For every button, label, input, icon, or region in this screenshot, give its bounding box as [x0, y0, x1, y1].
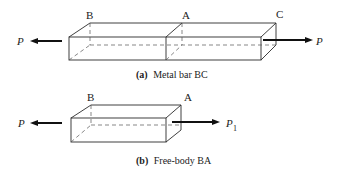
- point-label-b: B: [86, 9, 93, 21]
- force-arrow-right-a: [263, 37, 313, 43]
- bar-a-top-face: [69, 23, 276, 37]
- bar-a-hidden-left-diagonal: [69, 45, 90, 60]
- force-label-left-a: P: [16, 35, 24, 47]
- caption-a-tag: (a): [136, 69, 148, 81]
- metal-bar-bc: B A C P P (a) Metal bar BC: [16, 8, 323, 81]
- caption-b-tag: (b): [136, 155, 148, 167]
- point-label-c: C: [276, 8, 283, 20]
- point-label-b-fb: B: [87, 91, 94, 103]
- free-body-ba: B A P P 1 (b) Free-body BA: [17, 91, 237, 167]
- force-arrow-right-b: [172, 119, 220, 125]
- bar-a-front-face: [69, 37, 261, 60]
- force-arrow-left-b: [30, 120, 62, 126]
- bar-b-top-face: [71, 105, 181, 118]
- caption-b: (b) Free-body BA: [136, 155, 212, 167]
- force-arrow-left-a: [30, 38, 62, 44]
- force-label-right-b: P: [225, 117, 233, 129]
- caption-a-text: Metal bar BC: [153, 69, 208, 80]
- bar-a-hidden-mid-diagonal: [166, 45, 182, 60]
- caption-b-text: Free-body BA: [154, 155, 212, 166]
- force-label-right-a: P: [315, 35, 323, 47]
- caption-a: (a) Metal bar BC: [136, 69, 208, 81]
- bar-b-right-face: [166, 105, 181, 142]
- force-label-left-b: P: [17, 117, 25, 129]
- bar-a-section-a-top: [166, 23, 182, 37]
- bar-b-hidden-left-diagonal: [71, 125, 91, 142]
- bar-b-front-face: [71, 118, 166, 142]
- force-label-right-b-subscript: 1: [233, 124, 237, 133]
- metal-bar-diagram: B A C P P (a) Metal bar BC: [0, 0, 337, 173]
- point-label-a: A: [182, 9, 190, 21]
- bar-a-right-face: [261, 23, 276, 60]
- point-label-a-fb: A: [184, 91, 192, 103]
